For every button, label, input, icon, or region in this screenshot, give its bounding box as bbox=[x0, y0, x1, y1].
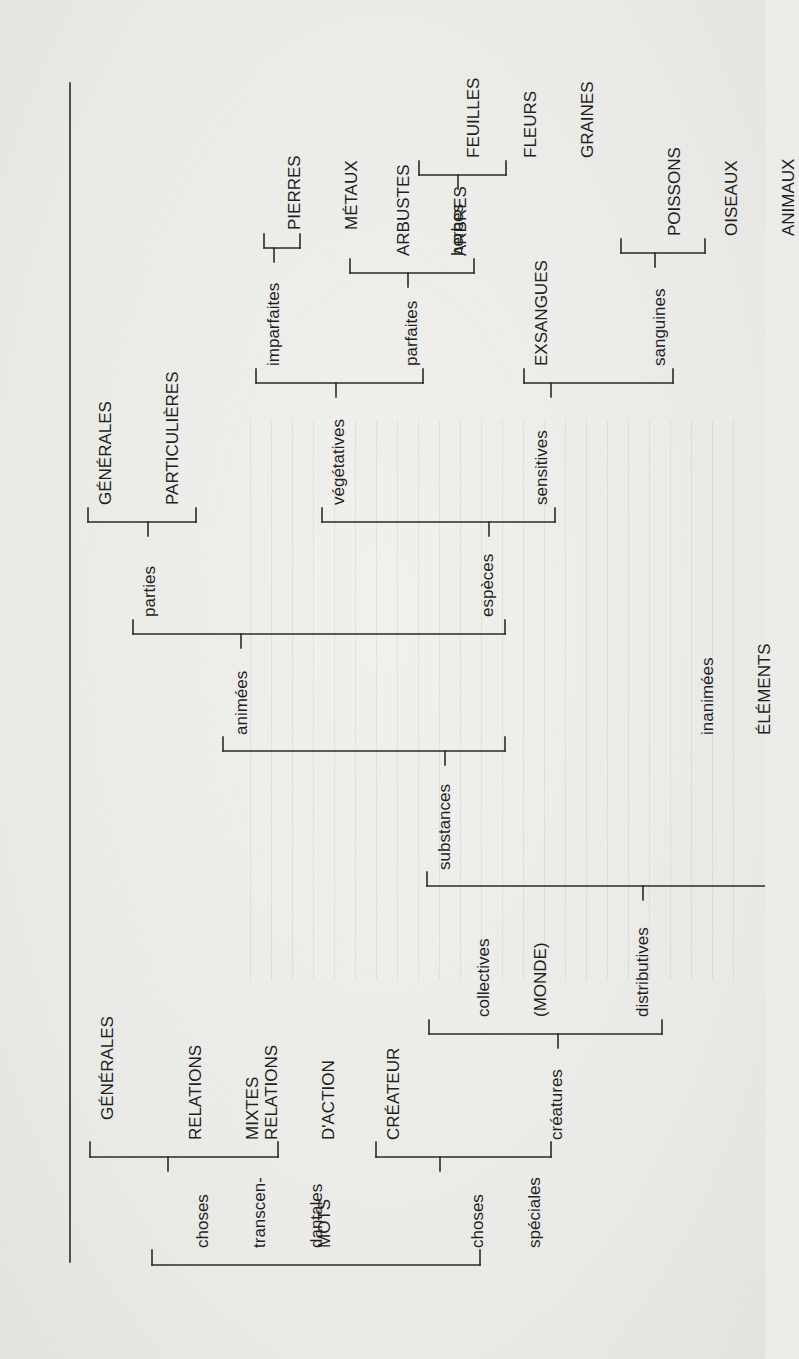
node-inanimees: inanimées ÉLÉMENTS bbox=[660, 643, 799, 735]
node-substances: substances bbox=[435, 784, 454, 870]
node-feuilles-fleurs-graines: FEUILLES FLEURS GRAINES bbox=[426, 78, 635, 158]
node-parties: parties bbox=[140, 566, 159, 617]
node-choses-transcendantales: choses transcen- dantales bbox=[155, 1177, 364, 1248]
node-relations-action: RELATIONS D'ACTION bbox=[224, 1045, 376, 1140]
node-collectives: collectives (MONDE) bbox=[436, 939, 588, 1017]
node-sanguines: sanguines bbox=[650, 288, 669, 366]
node-createur: CRÉATEUR bbox=[384, 1048, 403, 1140]
node-particulieres: PARTICULIÈRES bbox=[163, 371, 182, 505]
node-creatures: créatures bbox=[547, 1069, 566, 1140]
node-parfaites: parfaites bbox=[402, 301, 421, 366]
node-vegetatives: végétatives bbox=[329, 419, 348, 505]
node-choses-speciales: choses spéciales bbox=[430, 1177, 582, 1248]
node-generales-top: GÉNÉRALES bbox=[98, 1016, 117, 1120]
node-generales-parties: GÉNÉRALES bbox=[96, 401, 115, 505]
node-arbustes-arbres: ARBUSTES ARBRES bbox=[356, 164, 508, 256]
node-imparfaites: imparfaites bbox=[264, 283, 283, 366]
node-exsangues: EXSANGUES bbox=[532, 260, 551, 366]
node-poissons-oiseaux-animaux: POISSONS OISEAUX ANIMAUX bbox=[627, 147, 799, 236]
node-distributives: distributives bbox=[633, 927, 652, 1017]
node-herbes: herbes bbox=[448, 204, 467, 256]
node-especes: espèces bbox=[478, 554, 497, 617]
node-animees: animées bbox=[232, 671, 251, 735]
node-sensitives: sensitives bbox=[532, 430, 551, 505]
